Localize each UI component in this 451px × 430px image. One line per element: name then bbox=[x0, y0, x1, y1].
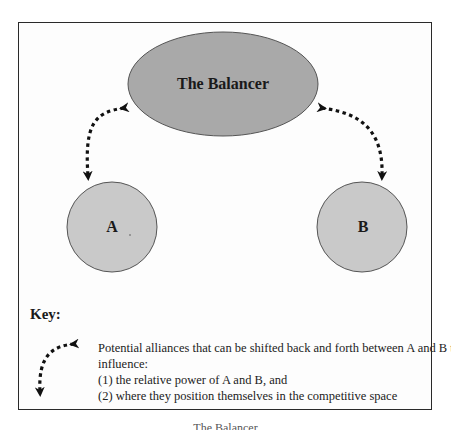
key-description: Potential alliances that can be shifted … bbox=[98, 340, 428, 404]
node-b-label: B bbox=[343, 218, 383, 236]
alliance-arrow-a-icon bbox=[87, 108, 124, 176]
key-title: Key: bbox=[30, 306, 61, 323]
key-arrow-icon bbox=[40, 344, 74, 392]
figure-caption: The Balancer bbox=[0, 421, 451, 430]
key-line-4: (2) where they position themselves in th… bbox=[98, 388, 428, 404]
alliance-arrow-b-icon bbox=[322, 108, 382, 176]
balancer-label: The Balancer bbox=[128, 75, 318, 93]
key-line-2: influence: bbox=[98, 356, 428, 372]
node-a-label: A bbox=[92, 218, 132, 236]
key-line-1: Potential alliances that can be shifted … bbox=[98, 340, 428, 356]
key-line-3: (1) the relative power of A and B, and bbox=[98, 372, 428, 388]
